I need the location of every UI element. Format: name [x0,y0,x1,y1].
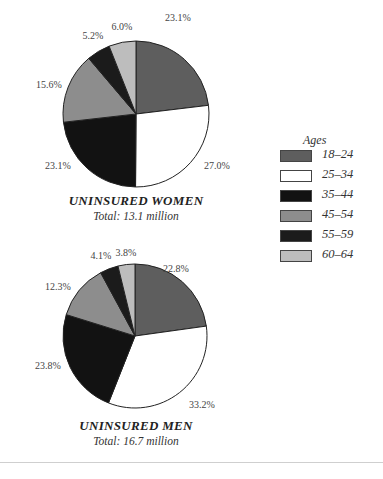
legend-title: Ages [303,133,326,148]
legend-label: 55–59 [322,227,353,242]
legend-swatch [280,190,312,202]
women-label-55-59: 5.2% [83,30,104,41]
men-label-18-24: 22.8% [163,263,189,274]
bottom-divider [0,462,383,463]
legend-swatch [280,150,312,162]
legend-swatch [280,250,312,262]
women-chart-title: UNINSURED WOMEN [69,193,204,209]
legend-label: 60–64 [322,247,353,262]
legend-swatch [280,230,312,242]
men-label-35-44: 23.8% [35,360,61,371]
women-label-60-64: 6.0% [112,21,133,32]
legend-label: 25–34 [322,167,353,182]
men-label-60-64: 3.8% [116,247,137,258]
pie-women [63,41,209,187]
pie-slice-18-24 [136,41,208,114]
pie-slice-18-24 [135,264,206,336]
legend-label: 35–44 [322,187,353,202]
legend-swatch [280,210,312,222]
pie-slice-25-34 [136,105,209,187]
women-label-35-44: 23.1% [45,160,71,171]
men-chart-subtitle: Total: 16.7 million [93,435,179,447]
women-chart-subtitle: Total: 13.1 million [93,210,179,222]
men-chart-title: UNINSURED MEN [79,418,192,434]
men-label-55-59: 4.1% [91,250,112,261]
women-label-45-54: 15.6% [36,79,62,90]
legend-label: 45–54 [322,207,353,222]
women-label-18-24: 23.1% [165,12,191,23]
pie-men [63,264,207,408]
legend-swatch [280,170,312,182]
pie-slice-35-44 [63,114,136,187]
legend-label: 18–24 [322,147,353,162]
men-label-45-54: 12.3% [45,281,71,292]
men-label-25-34: 33.2% [189,399,215,410]
women-label-25-34: 27.0% [204,160,230,171]
